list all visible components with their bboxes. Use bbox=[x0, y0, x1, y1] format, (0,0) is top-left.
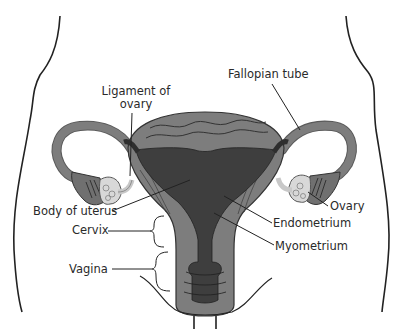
label-ligament-of-ovary: Ligament of ovary bbox=[100, 85, 172, 111]
body-outline-left bbox=[14, 16, 60, 312]
label-endometrium: Endometrium bbox=[273, 217, 351, 230]
label-myometrium: Myometrium bbox=[275, 240, 348, 253]
uterus-anatomy-diagram bbox=[0, 0, 401, 329]
label-fallopian-tube: Fallopian tube bbox=[228, 68, 309, 81]
vagina-brace bbox=[112, 252, 170, 291]
label-body-of-uterus: Body of uterus bbox=[33, 205, 117, 218]
label-vagina: Vagina bbox=[69, 263, 108, 276]
label-cervix: Cervix bbox=[72, 224, 109, 237]
cervix-brace bbox=[108, 216, 164, 247]
label-ovary: Ovary bbox=[330, 200, 364, 213]
endometrium bbox=[136, 148, 276, 303]
label-ligament-line2: ovary bbox=[100, 98, 172, 111]
leader-fallopian bbox=[272, 84, 300, 130]
